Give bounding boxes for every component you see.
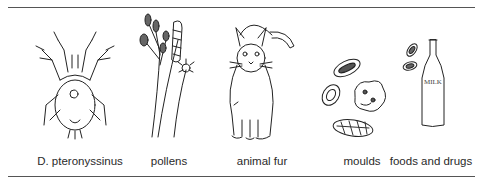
foods-drugs-figure: MILK (400, 10, 460, 140)
label-dust-mite: D. pteronyssinus (37, 155, 123, 167)
cat-icon (222, 10, 302, 150)
bottom-rule (8, 176, 475, 177)
label-foods-drugs: foods and drugs (390, 155, 472, 167)
top-rule (8, 7, 475, 8)
dust-mite-icon (30, 10, 120, 140)
label-animal-fur: animal fur (237, 155, 288, 167)
label-moulds: moulds (343, 155, 380, 167)
milk-label: MILK (424, 78, 442, 86)
milk-bottle-icon: MILK (400, 10, 460, 140)
cat-figure (222, 10, 302, 150)
pollens-figure (130, 10, 210, 145)
dust-mite-figure (30, 10, 120, 140)
pollen-plants-icon (130, 10, 210, 145)
label-pollens: pollens (151, 155, 187, 167)
